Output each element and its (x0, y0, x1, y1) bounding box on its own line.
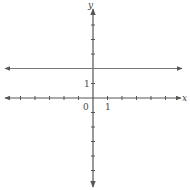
x-axis-label: x (182, 93, 187, 103)
y-tick-label-1: 1 (84, 79, 90, 89)
x-tick-label-1: 1 (105, 102, 111, 112)
origin-label: 0 (83, 102, 89, 112)
coordinate-plane: y x 0 1 1 (0, 0, 190, 190)
y-axis-label: y (87, 0, 94, 10)
